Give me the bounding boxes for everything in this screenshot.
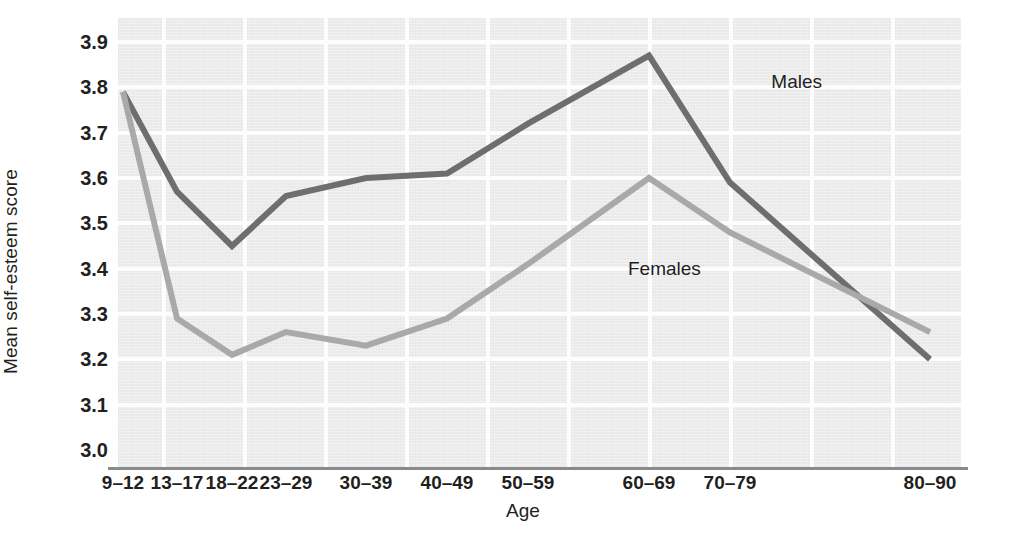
y-axis-tick-label: 3.1: [62, 395, 108, 415]
y-axis-tick-label: 3.2: [62, 349, 108, 369]
y-axis-title-text: Mean self-esteem score: [0, 169, 46, 374]
chart-figure: Mean self-esteem score 3.03.13.23.33.43.…: [0, 0, 1013, 543]
x-axis-line: [108, 467, 968, 470]
line-series-males: [123, 56, 930, 360]
x-axis-tick-label: 9–12: [102, 473, 144, 492]
x-axis-title-text: Age: [506, 500, 540, 521]
series-label-females: Females: [628, 259, 701, 278]
y-axis-tick-label: 3.8: [62, 77, 108, 97]
x-axis-tick-label: 18–22: [206, 473, 259, 492]
x-axis-tick-label: 30–39: [340, 473, 393, 492]
y-axis-tick-label: 3.0: [62, 440, 108, 460]
line-series-females: [123, 92, 930, 355]
x-axis-tick-label: 60–69: [623, 473, 676, 492]
x-axis-tick-labels: 9–1213–1718–2223–2930–3940–4950–5960–697…: [0, 473, 1013, 499]
y-axis-tick-label: 3.4: [62, 259, 108, 279]
y-axis-tick-label: 3.9: [62, 32, 108, 52]
y-axis-tick-label: 3.5: [62, 213, 108, 233]
y-axis-tick-label: 3.3: [62, 304, 108, 324]
x-axis-tick-label: 50–59: [502, 473, 555, 492]
x-axis-tick-label: 80–90: [904, 473, 957, 492]
series-lines: [118, 18, 961, 468]
x-axis-tick-label: 40–49: [421, 473, 474, 492]
y-axis-tick-labels: 3.03.13.23.33.43.53.63.73.83.9: [60, 0, 108, 543]
y-axis-tick-label: 3.7: [62, 123, 108, 143]
plot-area: MalesFemales: [118, 18, 961, 468]
series-label-males: Males: [771, 72, 822, 91]
y-axis-tick-label: 3.6: [62, 168, 108, 188]
y-axis-title: Mean self-esteem score: [0, 0, 46, 543]
x-axis-tick-label: 70–79: [704, 473, 757, 492]
x-axis-title: Age: [118, 500, 928, 522]
x-axis-tick-label: 23–29: [260, 473, 313, 492]
x-axis-tick-label: 13–17: [151, 473, 204, 492]
